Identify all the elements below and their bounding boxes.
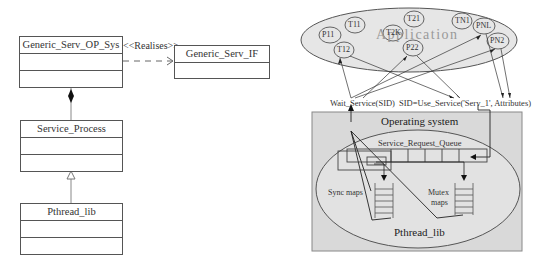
thread-pnl: PNL	[476, 21, 491, 30]
thread-t11: T11	[348, 20, 361, 29]
wait-service-call: Wait_Service(SID)	[330, 98, 395, 108]
thread-t12: T12	[337, 45, 350, 54]
thread-p22: P22	[406, 43, 418, 52]
queue-label: Service_Request_Queue	[378, 138, 462, 148]
thread-t21: T21	[407, 14, 420, 23]
mutex-maps-label-2: maps	[431, 198, 448, 207]
thread-p11: P11	[322, 30, 334, 39]
use-service-call: SID=Use_Service('Serv_1', Attributes)	[399, 98, 531, 108]
system-diagram	[0, 0, 540, 270]
sync-maps-label: Sync maps	[328, 188, 363, 197]
os-label: Operating system	[381, 115, 458, 127]
thread-t2k: T2K	[386, 28, 401, 37]
pthread-lib-label: Pthread_lib	[394, 226, 445, 238]
mutex-maps-label-1: Mutex	[428, 188, 449, 197]
thread-pn2: PN2	[490, 36, 504, 45]
thread-tn1: TN1	[455, 16, 470, 25]
